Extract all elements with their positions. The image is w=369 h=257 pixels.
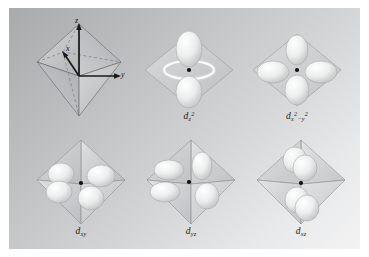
axis-label-y: y — [121, 70, 125, 79]
caption-d-z2: dz2 — [137, 110, 241, 122]
d-xy-drawing — [29, 130, 133, 234]
caption-d-xy: dxy — [29, 226, 133, 237]
panel-d-xz: dxz — [249, 130, 353, 234]
panel-d-yz: dyz — [139, 130, 243, 234]
caption-d-xz: dxz — [249, 226, 353, 237]
d-z2-drawing — [137, 18, 241, 122]
panel-d-xy: dxy — [29, 130, 133, 234]
caption-d-z2-sup: 2 — [191, 110, 194, 117]
panel-octahedron-axes: z x y — [25, 18, 133, 122]
d-x2-y2-drawing — [245, 18, 349, 122]
caption-d-x2-y2: dx2−y2 — [245, 110, 349, 122]
caption-d-yz: dyz — [139, 226, 243, 237]
axis-label-z: z — [75, 16, 78, 25]
d-yz-drawing — [139, 130, 243, 234]
octahedron-axes-drawing — [25, 18, 133, 122]
figure-panel: z x y dz2 — [9, 8, 360, 249]
panel-d-x2-y2: dx2−y2 — [245, 18, 349, 122]
caption-d-yz-sub: yz — [191, 230, 197, 237]
axis-label-x: x — [66, 44, 70, 53]
caption-d-xy-sub: xy — [81, 230, 87, 237]
panel-d-z2: dz2 — [137, 18, 241, 122]
d-xz-drawing — [249, 130, 353, 234]
caption-d-xz-sub: xz — [301, 230, 307, 237]
caption-d-x2-y2-sup-b: 2 — [305, 110, 308, 117]
